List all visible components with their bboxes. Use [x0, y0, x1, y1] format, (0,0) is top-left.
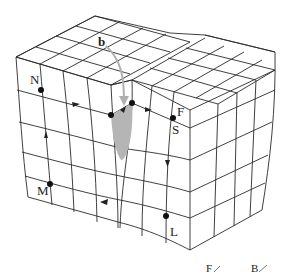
legend-b-label: B: [251, 262, 258, 274]
legend: F B: [206, 262, 267, 274]
top-face-grid: [16, 16, 275, 104]
arrow-down-icon: [165, 160, 170, 167]
right-face-grid: [190, 52, 275, 250]
legend-f-mark-icon: [214, 266, 220, 272]
front-face-grid: [16, 57, 190, 250]
burgers-vector-arrow: [106, 46, 124, 100]
point-s-label: S: [172, 122, 179, 137]
burgers-arrowhead-icon: [119, 96, 129, 106]
legend-f-label: F: [206, 262, 212, 274]
point-fs-dot: [170, 115, 176, 121]
point-m-label: M: [37, 183, 49, 198]
point-f-label: F: [177, 104, 184, 119]
legend-b-mark-icon: [259, 265, 267, 272]
point-l-dot: [163, 213, 169, 219]
lattice-diagram: b N F S M L F B: [0, 0, 288, 276]
dislocation-dot-right: [129, 100, 135, 106]
point-n-label: N: [30, 72, 40, 87]
point-n-dot: [38, 87, 44, 93]
dislocation-dot-left: [108, 112, 114, 118]
arrow-up-icon: [44, 131, 48, 138]
burgers-vector-label: b: [98, 34, 105, 49]
arrow-left-icon: [100, 199, 108, 205]
dislocation-core-shading: [111, 103, 132, 160]
point-l-label: L: [170, 224, 178, 239]
